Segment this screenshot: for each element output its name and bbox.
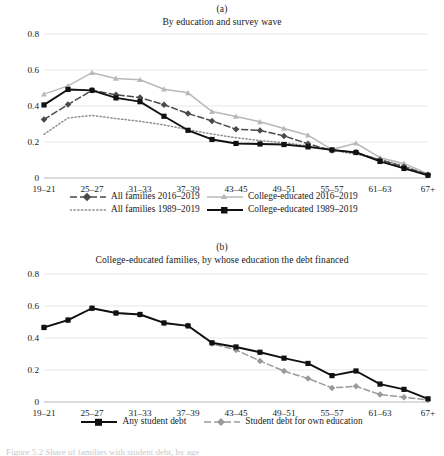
- y-axis-tick-label: 0.6: [28, 65, 40, 75]
- data-point-marker: [401, 387, 406, 392]
- legend-label-all-families-1989-2019: All families 1989–2019: [111, 203, 200, 216]
- data-point-marker: [305, 375, 312, 382]
- data-point-marker: [161, 101, 168, 108]
- data-point-marker: [89, 70, 95, 75]
- legend-item-any-student-debt[interactable]: Any student debt: [81, 415, 186, 428]
- data-point-marker: [305, 361, 310, 366]
- panel-a-letter: (a): [0, 0, 444, 15]
- panel-b-plot-area: 00.20.40.60.819–2125–2731–3337–3943–4549…: [0, 266, 444, 416]
- legend-item-college-educated-2016-2019[interactable]: College-educated 2016–2019: [207, 190, 422, 203]
- data-point-marker: [353, 140, 359, 145]
- data-point-marker: [281, 142, 286, 147]
- data-point-marker: [209, 118, 216, 125]
- panel-a-title: By education and survey wave: [0, 15, 444, 28]
- series-student-debt-for-own-education: [41, 305, 432, 403]
- data-point-marker: [185, 323, 190, 328]
- legend-swatch-dashed-dark: [70, 192, 106, 202]
- data-point-marker: [233, 126, 240, 133]
- data-point-marker: [89, 88, 94, 93]
- data-point-marker: [353, 150, 358, 155]
- data-point-marker: [233, 344, 238, 349]
- figure-student-debt-by-age: (a) By education and survey wave 00.20.4…: [0, 0, 444, 456]
- data-point-marker: [185, 110, 192, 117]
- data-point-marker: [377, 159, 382, 164]
- series-line: [44, 308, 428, 400]
- legend-swatch-dotted-gray: [70, 205, 106, 215]
- panel-a-legend-row-1: All families 2016–2019 College-educated …: [0, 190, 444, 203]
- panel-b-letter: (b): [0, 238, 444, 253]
- data-point-marker: [41, 102, 46, 107]
- series-line: [44, 90, 428, 174]
- legend-swatch-solid-light: [207, 192, 243, 202]
- data-point-marker: [257, 141, 262, 146]
- y-axis-tick-label: 0.2: [28, 365, 40, 375]
- data-point-marker: [209, 340, 214, 345]
- y-axis-tick-label: 0.8: [28, 269, 40, 279]
- legend-swatch-dashed-gray-b: [204, 417, 240, 427]
- panel-b: (b) College-educated families, by whose …: [0, 238, 444, 438]
- legend-swatch-solid-black: [207, 205, 243, 215]
- data-point-marker: [401, 394, 408, 401]
- data-point-marker: [281, 368, 288, 375]
- data-point-marker: [161, 114, 166, 119]
- data-point-marker: [65, 317, 70, 322]
- panel-b-chart-svg: 00.20.40.60.819–2125–2731–3337–3943–4549…: [0, 266, 444, 416]
- panel-b-title: College-educated families, by whose educ…: [0, 253, 444, 266]
- data-point-marker: [233, 141, 238, 146]
- data-point-marker: [257, 127, 264, 134]
- y-axis-tick-label: 0.4: [28, 101, 40, 111]
- data-point-marker: [137, 312, 142, 317]
- figure-caption-partial: Figure 5.2 Share of families with studen…: [0, 447, 444, 456]
- legend-item-student-debt-own-education[interactable]: Student debt for own education: [204, 415, 362, 428]
- data-point-marker: [329, 147, 334, 152]
- y-axis-tick-label: 0.8: [28, 29, 40, 39]
- data-point-marker: [281, 356, 286, 361]
- data-point-marker: [113, 310, 118, 315]
- legend-item-all-families-1989-2019[interactable]: All families 1989–2019: [22, 203, 207, 216]
- data-point-marker: [353, 383, 360, 390]
- legend-label-all-families-2016-2019: All families 2016–2019: [111, 190, 200, 203]
- data-point-marker: [425, 396, 430, 401]
- data-point-marker: [257, 350, 262, 355]
- legend-label-college-educated-2016-2019: College-educated 2016–2019: [248, 190, 358, 203]
- data-point-marker: [401, 166, 406, 171]
- y-axis-tick-label: 0: [34, 397, 39, 407]
- data-point-marker: [209, 137, 214, 142]
- y-axis-tick-label: 0.2: [28, 137, 40, 147]
- series-any-student-debt: [41, 306, 430, 402]
- data-point-marker: [137, 99, 142, 104]
- legend-item-college-educated-1989-2019[interactable]: College-educated 1989–2019: [207, 203, 422, 216]
- data-point-marker: [377, 391, 384, 398]
- series-line: [44, 308, 428, 399]
- data-point-marker: [65, 87, 70, 92]
- legend-label-any-student-debt: Any student debt: [122, 415, 186, 428]
- data-point-marker: [257, 358, 264, 365]
- panel-a-legend-row-2: All families 1989–2019 College-educated …: [0, 203, 444, 216]
- data-point-marker: [377, 381, 382, 386]
- panel-b-legend: Any student debt Student debt for own ed…: [0, 415, 444, 428]
- y-axis-tick-label: 0.4: [28, 333, 40, 343]
- panel-a-plot-area: 00.20.40.60.819–2125–2731–3337–3943–4549…: [0, 28, 444, 196]
- legend-item-all-families-2016-2019[interactable]: All families 2016–2019: [22, 190, 207, 203]
- data-point-marker: [305, 144, 310, 149]
- data-point-marker: [329, 385, 336, 392]
- data-point-marker: [281, 133, 288, 140]
- data-point-marker: [113, 95, 118, 100]
- series-college-educated-2016-2019: [41, 70, 431, 177]
- data-point-marker: [185, 128, 190, 133]
- legend-label-student-debt-own-education: Student debt for own education: [245, 415, 362, 428]
- panel-a-chart-svg: 00.20.40.60.819–2125–2731–3337–3943–4549…: [0, 28, 444, 196]
- data-point-marker: [353, 368, 358, 373]
- data-point-marker: [425, 173, 430, 178]
- legend-label-college-educated-1989-2019: College-educated 1989–2019: [248, 203, 358, 216]
- series-all-families-2016-2019: [41, 87, 432, 178]
- panel-b-legend-row-1: Any student debt Student debt for own ed…: [0, 415, 444, 428]
- data-point-marker: [329, 373, 334, 378]
- data-point-marker: [41, 325, 46, 330]
- y-axis-tick-label: 0: [34, 173, 39, 183]
- y-axis-tick-label: 0.6: [28, 301, 40, 311]
- panel-a-legend: All families 2016–2019 College-educated …: [0, 190, 444, 216]
- panel-a: (a) By education and survey wave 00.20.4…: [0, 0, 444, 238]
- data-point-marker: [65, 101, 72, 108]
- data-point-marker: [89, 306, 94, 311]
